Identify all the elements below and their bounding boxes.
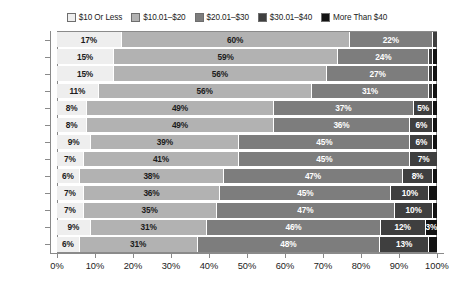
- bar-segment[interactable]: [433, 101, 437, 115]
- bar-segment[interactable]: 5%: [414, 101, 433, 115]
- bar-segment[interactable]: [433, 203, 437, 217]
- bar-segment[interactable]: [433, 84, 437, 98]
- bar-segment[interactable]: 31%: [91, 220, 208, 234]
- bar-segment[interactable]: 8%: [57, 118, 87, 132]
- x-axis-tick-label: 100%: [425, 261, 449, 271]
- bar-segment[interactable]: 6%: [410, 135, 433, 149]
- bar-segment[interactable]: [429, 186, 437, 200]
- bar-segment[interactable]: 48%: [198, 237, 380, 251]
- bar-segment[interactable]: 31%: [312, 84, 430, 98]
- bar-row[interactable]: 6%31%48%13%: [57, 237, 437, 251]
- bar-segment[interactable]: 17%: [57, 32, 122, 46]
- bar-segment[interactable]: [433, 135, 437, 149]
- bar-segment[interactable]: [433, 118, 437, 132]
- bar-segment[interactable]: 49%: [87, 118, 273, 132]
- bar-segment[interactable]: 47%: [217, 203, 396, 217]
- bar-segment[interactable]: 13%: [380, 237, 429, 251]
- bar-segment[interactable]: 7%: [410, 152, 437, 166]
- legend-item[interactable]: $10.01–$20: [131, 13, 185, 22]
- bar-segment[interactable]: 22%: [350, 32, 434, 46]
- bar-segment[interactable]: 9%: [57, 220, 91, 234]
- bar-row[interactable]: 7%35%47%10%: [57, 203, 437, 217]
- bar-segment[interactable]: 39%: [91, 135, 239, 149]
- bar-segment-label: 8%: [66, 103, 78, 113]
- bar-segment[interactable]: 38%: [80, 169, 224, 183]
- bar-segment[interactable]: 56%: [99, 84, 312, 98]
- bar-segment[interactable]: 35%: [84, 203, 217, 217]
- x-axis-tick-mark: [95, 253, 96, 258]
- bar-segment[interactable]: [433, 66, 437, 80]
- bar-segment[interactable]: 10%: [391, 186, 429, 200]
- bar-segment[interactable]: 8%: [57, 101, 87, 115]
- bar-segment[interactable]: 45%: [220, 186, 391, 200]
- bar-segment-label: 7%: [418, 154, 430, 164]
- bar-row[interactable]: 8%49%37%5%: [57, 101, 437, 115]
- bar-row[interactable]: 8%49%36%6%: [57, 118, 437, 132]
- legend-item[interactable]: $30.01–$40: [258, 13, 312, 22]
- bar-row[interactable]: 11%56%31%: [57, 84, 437, 98]
- bar-segment[interactable]: 7%: [57, 152, 84, 166]
- bar-segment[interactable]: 15%: [57, 66, 114, 80]
- bar-segment-label: 9%: [68, 222, 80, 232]
- bar-segment-label: 5%: [417, 103, 429, 113]
- bar-segment[interactable]: [433, 49, 437, 63]
- bar-row[interactable]: 6%38%47%8%: [57, 169, 437, 183]
- bar-row[interactable]: 9%31%46%12%3%: [57, 220, 437, 234]
- bar-segment[interactable]: 10%: [395, 203, 433, 217]
- bar-segment[interactable]: 60%: [122, 32, 350, 46]
- y-axis-tick-mark: [45, 40, 50, 41]
- y-axis-tick-mark: [45, 125, 50, 126]
- bar-segment[interactable]: 45%: [239, 152, 410, 166]
- bar-segment[interactable]: 36%: [84, 186, 221, 200]
- bar-segment[interactable]: 15%: [57, 49, 114, 63]
- bar-segment[interactable]: 41%: [84, 152, 240, 166]
- bar-segment[interactable]: 7%: [57, 203, 84, 217]
- legend-item[interactable]: $20.01–$30: [195, 13, 249, 22]
- bar-segment[interactable]: 36%: [274, 118, 411, 132]
- bar-segment[interactable]: 27%: [327, 66, 430, 80]
- bar-segment-label: 10%: [406, 205, 422, 215]
- bar-segment-label: 48%: [280, 239, 296, 249]
- bar-segment[interactable]: 12%: [381, 220, 426, 234]
- bar-segment-label: 47%: [305, 171, 321, 181]
- bar-segment[interactable]: 49%: [87, 101, 273, 115]
- bar-segment[interactable]: 11%: [57, 84, 99, 98]
- bar-segment[interactable]: [433, 169, 437, 183]
- bar-row[interactable]: 7%41%45%7%: [57, 152, 437, 166]
- bar-row[interactable]: 7%36%45%10%: [57, 186, 437, 200]
- legend-item[interactable]: More Than $40: [321, 13, 387, 22]
- bar-segment[interactable]: 46%: [207, 220, 380, 234]
- bar-segment[interactable]: 6%: [410, 118, 433, 132]
- bar-segment[interactable]: 47%: [224, 169, 403, 183]
- y-axis-tick-mark: [45, 244, 50, 245]
- bar-segment-label: 39%: [157, 137, 173, 147]
- bar-segment[interactable]: 59%: [114, 49, 338, 63]
- bar-row[interactable]: 15%56%27%: [57, 66, 437, 80]
- bar-segment[interactable]: 56%: [114, 66, 327, 80]
- legend-swatch-icon: [67, 13, 76, 22]
- x-axis-tick-mark: [171, 253, 172, 258]
- bar-segment[interactable]: [433, 32, 437, 46]
- legend-item[interactable]: $10 Or Less: [67, 13, 123, 22]
- bar-segment-label: 56%: [197, 86, 213, 96]
- bar-segment-label: 7%: [64, 205, 76, 215]
- x-axis-tick-mark: [133, 253, 134, 258]
- legend-item-label: $10.01–$20: [143, 13, 185, 22]
- bar-segment[interactable]: 31%: [80, 237, 198, 251]
- bar-segment[interactable]: 8%: [403, 169, 433, 183]
- bar-row[interactable]: 15%59%24%: [57, 49, 437, 63]
- bar-segment[interactable]: 45%: [239, 135, 410, 149]
- bar-segment[interactable]: 6%: [57, 169, 80, 183]
- y-axis-tick-mark: [45, 193, 50, 194]
- bar-segment[interactable]: 6%: [57, 237, 80, 251]
- bar-segment[interactable]: 7%: [57, 186, 84, 200]
- bar-segment[interactable]: [429, 237, 437, 251]
- bar-row[interactable]: 17%60%22%: [57, 32, 437, 46]
- bar-segment[interactable]: 9%: [57, 135, 91, 149]
- bar-segment[interactable]: 24%: [338, 49, 429, 63]
- x-axis-tick-mark: [57, 253, 58, 258]
- y-axis-tick-mark: [45, 159, 50, 160]
- bar-row[interactable]: 9%39%45%6%: [57, 135, 437, 149]
- bar-segment[interactable]: 37%: [274, 101, 415, 115]
- bar-segment[interactable]: 3%: [426, 220, 437, 234]
